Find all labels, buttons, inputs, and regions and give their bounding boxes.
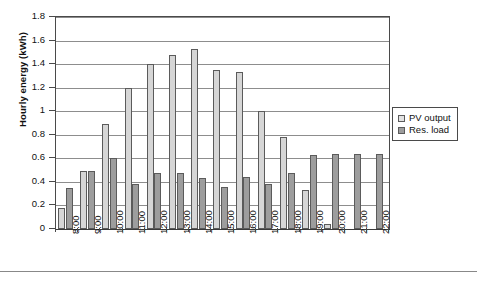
legend-swatch-res-load [398, 127, 405, 134]
bar-pv [147, 64, 154, 229]
x-tick-mark [388, 228, 389, 232]
x-tick-label: 13:00 [182, 194, 192, 234]
x-tick-label: 21:00 [359, 194, 369, 234]
x-tick-label: 19:00 [315, 194, 325, 234]
x-tick-label: 14:00 [204, 194, 214, 234]
bar-pv [258, 111, 265, 229]
chart-legend: PV output Res. load [392, 107, 458, 141]
y-axis-ticks: 00.20.40.60.811.21.41.61.8 [0, 0, 55, 245]
x-tick-mark [366, 228, 367, 232]
bar-pv [169, 55, 176, 229]
x-tick-mark [144, 228, 145, 232]
x-tick-mark [233, 228, 234, 232]
x-tick-mark [277, 228, 278, 232]
x-tick-label: 12:00 [159, 194, 169, 234]
bar-pv [324, 224, 331, 229]
bar-pv [102, 124, 109, 229]
legend-label-res-load: Res. load [409, 125, 449, 135]
bar-pv [302, 190, 309, 229]
x-tick-mark [99, 228, 100, 232]
x-tick-mark [299, 228, 300, 232]
x-tick-label: 17:00 [270, 194, 280, 234]
bar-pv [80, 171, 87, 229]
x-tick-mark [344, 228, 345, 232]
y-tick-label: 1 [5, 105, 45, 115]
x-tick-mark [77, 228, 78, 232]
legend-item-pv-output: PV output [398, 112, 451, 124]
x-tick-label: 8:00 [71, 194, 81, 234]
x-tick-label: 16:00 [248, 194, 258, 234]
x-tick-label: 11:00 [137, 194, 147, 234]
legend-item-res-load: Res. load [398, 124, 451, 136]
x-tick-mark [122, 228, 123, 232]
y-tick-label: 0.8 [5, 129, 45, 139]
bar-pv [236, 72, 243, 229]
x-tick-mark [321, 228, 322, 232]
x-tick-mark [210, 228, 211, 232]
x-axis-labels: 8:009:0010:0011:0012:0013:0014:0015:0016… [55, 231, 388, 273]
x-tick-label: 20:00 [337, 194, 347, 234]
y-tick-label: 1.2 [5, 82, 45, 92]
x-tick-label: 18:00 [293, 194, 303, 234]
x-tick-label: 15:00 [226, 194, 236, 234]
x-tick-label: 10:00 [115, 194, 125, 234]
chart-figure: Hourly energy (kWh) 00.20.40.60.811.21.4… [0, 0, 477, 284]
y-tick-label: 0 [5, 223, 45, 233]
y-tick-label: 1.6 [5, 35, 45, 45]
x-tick-mark [166, 228, 167, 232]
y-tick-label: 1.8 [5, 11, 45, 21]
bar-pv [58, 208, 65, 229]
bar-pv [280, 137, 287, 229]
x-tick-label: 22:00 [381, 194, 391, 234]
bar-pv [125, 88, 132, 229]
y-tick-label: 0.6 [5, 152, 45, 162]
legend-swatch-pv-output [398, 115, 405, 122]
y-tick-label: 1.4 [5, 58, 45, 68]
bar-pv [191, 49, 198, 229]
y-tick-label: 0.4 [5, 176, 45, 186]
x-tick-label: 9:00 [93, 194, 103, 234]
y-tick-label: 0.2 [5, 199, 45, 209]
x-tick-mark [55, 228, 56, 232]
bar-pv [213, 70, 220, 229]
x-tick-mark [188, 228, 189, 232]
legend-label-pv-output: PV output [409, 113, 451, 123]
x-tick-mark [255, 228, 256, 232]
